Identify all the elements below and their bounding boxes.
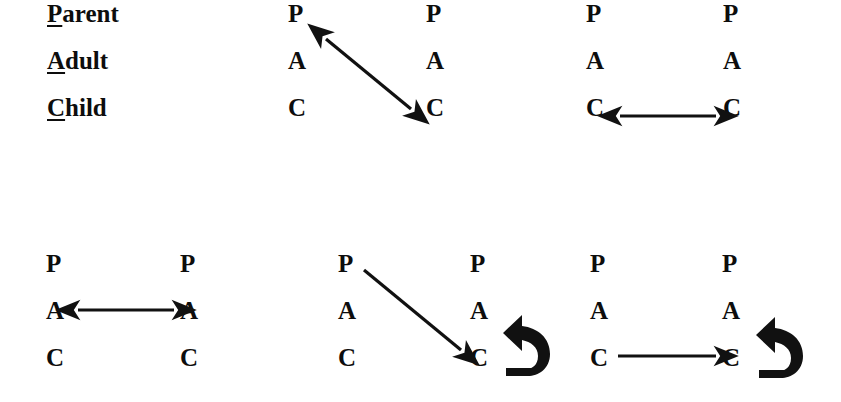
diagram-5-left-child: C [590, 344, 616, 391]
diagram-2-right-adult: A [723, 47, 749, 94]
diagram-5-child-to-child-arrow-icon [616, 344, 724, 368]
diagram-2-left-adult: A [586, 47, 612, 94]
diagram-5-right-column: P A C [722, 250, 748, 391]
diagram-5-left-column: P A C [590, 250, 616, 391]
diagram-5-right-adult: A [722, 297, 748, 344]
diagram-2-right-column: P A C [723, 0, 749, 141]
diagram-2-left-child: C [586, 94, 612, 141]
transactional-analysis-figure: Parent Adult Child P A C P A C [0, 0, 841, 402]
diagram-2: P A C P A C [0, 0, 841, 150]
diagram-5-left-adult: A [590, 297, 616, 344]
diagram-5-response-hook-arrow-icon [753, 308, 805, 378]
diagram-2-child-child-arrow-icon [612, 104, 724, 128]
diagram-2-left-column: P A C [586, 0, 612, 141]
diagram-5-right-child: C [722, 344, 748, 391]
diagram-2-right-child: C [723, 94, 749, 141]
diagram-5-right-parent: P [722, 250, 748, 297]
diagram-5-left-parent: P [590, 250, 616, 297]
diagram-2-right-parent: P [723, 0, 749, 47]
diagram-2-left-parent: P [586, 0, 612, 47]
diagram-5: P A C P A C [0, 250, 841, 402]
